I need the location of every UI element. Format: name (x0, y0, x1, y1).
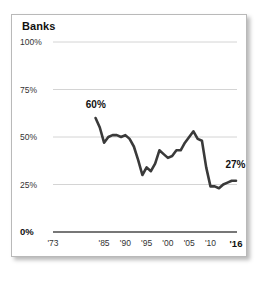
y-tick-label: 75% (20, 85, 37, 95)
y-tick-label: 100% (20, 37, 42, 47)
data-point-label: 27% (225, 159, 245, 170)
gridlines (53, 42, 237, 185)
x-tick-label: '85 (99, 238, 110, 248)
series-line (96, 118, 236, 188)
chart-card: Banks 0%25%50%75%100% '73'85'90'95'00'05… (11, 14, 247, 257)
x-tick-label: '90 (120, 238, 131, 248)
x-tick-label: '00 (162, 238, 173, 248)
y-tick-label: 0% (20, 226, 34, 237)
data-series-banks (96, 118, 236, 188)
data-point-label: 60% (86, 99, 106, 110)
plot-area (12, 15, 248, 258)
y-tick-label: 25% (20, 180, 37, 190)
x-tick-label: '95 (141, 238, 152, 248)
y-tick-label: 50% (20, 132, 37, 142)
chart-svg (12, 15, 248, 258)
x-tick-label: '10 (205, 238, 216, 248)
x-tick-label: '73 (47, 238, 58, 248)
x-tick-label: '05 (184, 238, 195, 248)
x-tick-label: '16 (230, 238, 243, 249)
